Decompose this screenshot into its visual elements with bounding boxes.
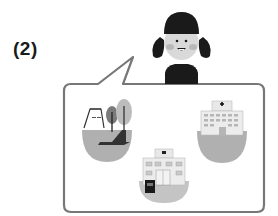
girl-character-icon (152, 12, 210, 84)
illustration (0, 0, 278, 216)
